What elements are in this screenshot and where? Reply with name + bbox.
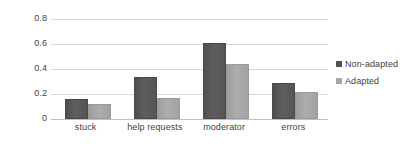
legend-swatch-icon bbox=[336, 78, 342, 84]
bar bbox=[157, 98, 180, 119]
bar-group bbox=[134, 19, 180, 119]
bar bbox=[88, 104, 111, 119]
bar bbox=[272, 83, 295, 119]
bar bbox=[65, 99, 88, 119]
y-tick-label: 0.2 bbox=[0, 89, 47, 98]
bar bbox=[203, 43, 226, 119]
legend-entry: Adapted bbox=[336, 74, 416, 88]
legend: Non-adaptedAdapted bbox=[336, 57, 416, 91]
legend-entry: Non-adapted bbox=[336, 57, 416, 71]
y-tick-label: 0.6 bbox=[0, 39, 47, 48]
legend-label: Non-adapted bbox=[345, 59, 398, 69]
bar-chart: 0.80.60.40.20 stuckhelp requestsmoderato… bbox=[0, 0, 416, 144]
bar bbox=[134, 77, 157, 120]
bars-layer bbox=[51, 19, 328, 119]
bar bbox=[226, 64, 249, 119]
category-label: errors bbox=[249, 122, 338, 133]
bar-group bbox=[272, 19, 318, 119]
y-tick-label: 0 bbox=[0, 114, 47, 123]
y-tick-label: 0.4 bbox=[0, 64, 47, 73]
bar-group bbox=[65, 19, 111, 119]
legend-label: Adapted bbox=[345, 76, 379, 86]
x-axis-category-labels: stuckhelp requestsmoderatorerrors bbox=[51, 122, 328, 138]
bar-group bbox=[203, 19, 249, 119]
x-axis-line bbox=[51, 119, 328, 120]
bar bbox=[295, 92, 318, 120]
y-tick-label: 0.8 bbox=[0, 14, 47, 23]
y-axis: 0.80.60.40.20 bbox=[0, 0, 47, 144]
plot-area bbox=[51, 19, 328, 119]
legend-swatch-icon bbox=[336, 61, 342, 67]
